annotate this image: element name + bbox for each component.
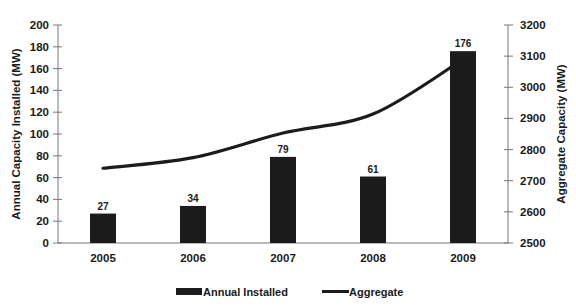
right-tick-label: 2500	[520, 237, 546, 249]
right-tick-label: 2900	[520, 112, 546, 124]
left-tick-label: 40	[36, 193, 49, 205]
left-tick-label: 180	[30, 41, 49, 53]
right-tick-label: 2700	[520, 175, 546, 187]
bar	[90, 214, 116, 243]
x-tick-label: 2009	[450, 252, 476, 264]
left-tick-label: 0	[43, 237, 49, 249]
bar	[270, 157, 296, 243]
left-tick-label: 140	[30, 84, 49, 96]
left-y-axis: 020406080100120140160180200	[30, 19, 62, 249]
chart: 020406080100120140160180200 250026002700…	[0, 0, 576, 308]
right-tick-label: 3000	[520, 81, 546, 93]
bar	[180, 206, 206, 243]
bar	[360, 177, 386, 243]
bar-data-label: 61	[367, 164, 379, 175]
right-tick-label: 2800	[520, 144, 546, 156]
x-axis: 20052006200720082009	[58, 243, 508, 264]
right-y-axis: 25002600270028002900300031003200	[504, 19, 546, 249]
right-axis-title: Aggregate Capacity (MW)	[555, 64, 567, 203]
bar-data-label: 79	[277, 144, 289, 155]
legend: Annual Installed Aggregate	[176, 286, 403, 298]
legend-label-annual-installed: Annual Installed	[203, 286, 288, 298]
x-tick-label: 2007	[270, 252, 296, 264]
bar-data-label: 176	[455, 38, 472, 49]
bar-series-annual-installed: 27347961176	[90, 38, 476, 243]
left-tick-label: 80	[36, 150, 49, 162]
bar	[450, 51, 476, 243]
legend-label-aggregate: Aggregate	[349, 286, 403, 298]
right-tick-label: 3200	[520, 19, 546, 31]
right-tick-label: 2600	[520, 206, 546, 218]
x-tick-label: 2005	[90, 252, 116, 264]
legend-swatch-bar	[176, 288, 202, 295]
bar-data-label: 34	[187, 193, 199, 204]
right-tick-label: 3100	[520, 50, 546, 62]
x-tick-label: 2006	[180, 252, 206, 264]
left-tick-label: 160	[30, 63, 49, 75]
left-tick-label: 100	[30, 128, 49, 140]
bar-data-label: 27	[97, 201, 109, 212]
left-tick-label: 20	[36, 215, 49, 227]
left-tick-label: 60	[36, 172, 49, 184]
x-tick-label: 2008	[360, 252, 386, 264]
left-tick-label: 200	[30, 19, 49, 31]
left-tick-label: 120	[30, 106, 49, 118]
left-axis-title: Annual Capacity Installed (MW)	[10, 48, 22, 219]
